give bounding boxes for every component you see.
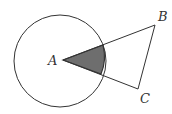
shaded-sector [63,45,104,74]
segment-bc [138,25,155,89]
label-c: C [140,91,150,106]
geometry-figure: A B C [0,0,172,114]
label-a: A [47,53,57,68]
segment-ab [63,25,155,60]
label-b: B [157,9,168,24]
diagram-canvas: A B C [0,0,172,114]
